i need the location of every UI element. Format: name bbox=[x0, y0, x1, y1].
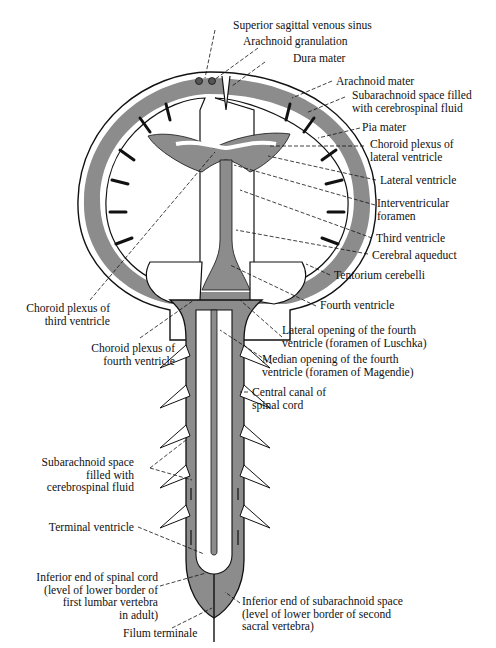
label-arachnoid-mater: Arachnoid mater bbox=[336, 76, 414, 89]
label-interventricular-foramen: Interventricular foramen bbox=[377, 198, 449, 223]
label-subarachnoid-space-brain: Subarachnoid space filled with cerebrosp… bbox=[352, 90, 472, 115]
label-lateral-ventricle: Lateral ventricle bbox=[380, 175, 456, 188]
label-cerebral-aqueduct: Cerebral aqueduct bbox=[372, 250, 457, 263]
label-inferior-end-spinal-cord: Inferior end of spinal cord (level of lo… bbox=[36, 572, 158, 622]
label-superior-sagittal-sinus: Superior sagittal venous sinus bbox=[233, 20, 372, 33]
label-subarachnoid-space-spinal: Subarachnoid space filled with cerebrosp… bbox=[42, 457, 134, 495]
label-choroid-plexus-lateral: Choroid plexus of lateral ventricle bbox=[370, 139, 454, 164]
spinal-section bbox=[160, 300, 270, 642]
label-dura-mater: Dura mater bbox=[293, 53, 345, 66]
label-choroid-plexus-third: Choroid plexus of third ventricle bbox=[26, 303, 110, 328]
label-pia-mater: Pia mater bbox=[362, 122, 406, 135]
label-terminal-ventricle: Terminal ventricle bbox=[49, 522, 134, 535]
label-tentorium-cerebelli: Tentorium cerebelli bbox=[334, 270, 425, 283]
label-median-opening: Median opening of the fourth ventricle (… bbox=[262, 354, 414, 379]
label-lateral-opening: Lateral opening of the fourth ventricle … bbox=[282, 325, 427, 350]
label-inferior-end-subarachnoid: Inferior end of subarachnoid space (leve… bbox=[242, 596, 403, 634]
label-choroid-plexus-fourth: Choroid plexus of fourth ventricle bbox=[91, 343, 175, 368]
label-fourth-ventricle: Fourth ventricle bbox=[320, 300, 394, 313]
label-filum-terminale: Filum terminale bbox=[123, 628, 197, 641]
label-arachnoid-granulation: Arachnoid granulation bbox=[243, 36, 348, 49]
label-third-ventricle: Third ventricle bbox=[376, 233, 445, 246]
label-central-canal: Central canal of spinal cord bbox=[252, 387, 326, 412]
